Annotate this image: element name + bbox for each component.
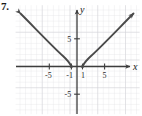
- y-axis-label: y: [79, 4, 85, 15]
- coordinate-plot: x y -5 -1 1 5 5 -5: [14, 4, 142, 116]
- y-tick-label-5: 5: [67, 35, 71, 44]
- vertex-point-left: [70, 65, 73, 68]
- x-tick-label-1: 1: [81, 71, 85, 80]
- vertex-point-right: [81, 65, 84, 68]
- graph-figure: 7.: [0, 0, 142, 116]
- x-axis-label: x: [132, 61, 138, 72]
- x-tick-label-5: 5: [103, 71, 107, 80]
- plot-svg: x y -5 -1 1 5 5 -5: [14, 4, 142, 116]
- problem-number-label: 7.: [1, 0, 9, 12]
- y-tick-label-neg5: -5: [65, 90, 72, 99]
- x-tick-label-neg1: -1: [66, 71, 73, 80]
- x-tick-label-neg5: -5: [45, 71, 52, 80]
